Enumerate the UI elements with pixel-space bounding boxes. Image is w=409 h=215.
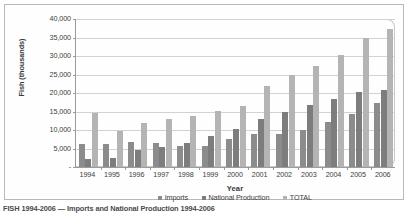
legend-label: National Production (208, 194, 269, 202)
bar-group (174, 19, 199, 167)
y-axis-tick-mark (73, 112, 76, 113)
x-axis-tick-label: 1998 (173, 171, 198, 179)
bar-total (92, 113, 98, 167)
legend-label: Imports (165, 194, 188, 202)
x-axis-tick-label: 2002 (272, 171, 297, 179)
y-axis-tick-mark (73, 130, 76, 131)
bar-national-production (307, 105, 313, 167)
y-axis-tick-label: 5,000 (23, 145, 71, 152)
legend-item[interactable]: National Production (202, 194, 269, 202)
y-axis-tick-mark (73, 167, 76, 168)
bar-imports (177, 146, 183, 167)
bar-total (166, 119, 172, 167)
y-axis-tick-mark (73, 149, 76, 150)
x-axis-tick-mark (125, 167, 126, 170)
x-axis-tick-labels: 1994199519961997199819992000200120022003… (75, 171, 395, 183)
x-axis-tick-label: 2000 (223, 171, 248, 179)
bar-group (248, 19, 273, 167)
bar-group (347, 19, 372, 167)
y-axis-tick-mark (73, 56, 76, 57)
bar-imports (202, 146, 208, 167)
bar-group (101, 19, 126, 167)
x-axis-tick-mark (347, 167, 348, 170)
y-axis-tick-label: 15,000 (23, 108, 71, 115)
bar-imports (153, 143, 159, 167)
chart-frame: Fish (thousands) 40,00035,00030,00025,00… (4, 4, 404, 200)
bar-imports (226, 139, 232, 167)
bar-national-production (381, 90, 387, 167)
bar-series-container (76, 19, 395, 167)
x-axis-tick-mark (371, 167, 372, 170)
y-axis-tick-label: 10,000 (23, 126, 71, 133)
bar-group (150, 19, 175, 167)
bar-group (76, 19, 101, 167)
bar-imports (374, 103, 380, 167)
y-axis-tick-label: 20,000 (23, 89, 71, 96)
y-axis-tick-label: 35,000 (23, 34, 71, 41)
bar-group (199, 19, 224, 167)
bar-total (363, 38, 369, 167)
bar-total (240, 106, 246, 167)
bar-group (125, 19, 150, 167)
bar-national-production (85, 159, 91, 167)
bar-total (215, 111, 221, 167)
x-axis-tick-label: 2004 (321, 171, 346, 179)
bar-total (289, 75, 295, 168)
legend-swatch-icon (202, 196, 206, 200)
bar-group (273, 19, 298, 167)
x-axis-tick-label: 1997 (149, 171, 174, 179)
y-axis-tick-mark (73, 19, 76, 20)
bar-total (338, 55, 344, 167)
bar-national-production (282, 112, 288, 167)
x-axis-tick-label: 1996 (124, 171, 149, 179)
x-axis-tick-mark (101, 167, 102, 170)
x-axis-tick-label: 2005 (346, 171, 371, 179)
legend-item[interactable]: Imports (158, 194, 188, 202)
bar-imports (251, 134, 257, 167)
bar-imports (103, 144, 109, 167)
x-axis-tick-label: 1999 (198, 171, 223, 179)
legend-item[interactable]: TOTAL (283, 194, 312, 202)
x-axis-title: Year (75, 184, 395, 193)
x-axis-tick-mark (224, 167, 225, 170)
chart-legend: ImportsNational ProductionTOTAL (75, 193, 395, 203)
bar-imports (79, 144, 85, 167)
bar-national-production (184, 143, 190, 167)
y-axis-tick-label: 30,000 (23, 52, 71, 59)
bar-imports (276, 134, 282, 167)
y-axis-tick-mark (73, 38, 76, 39)
bar-total (264, 86, 270, 167)
x-axis-tick-label: 1994 (75, 171, 100, 179)
x-axis-tick-label: 2006 (370, 171, 395, 179)
bar-imports (300, 130, 306, 167)
bar-group (371, 19, 396, 167)
y-axis-tick-label: - (23, 163, 71, 170)
bar-national-production (110, 158, 116, 167)
bar-total (117, 131, 123, 167)
bar-national-production (331, 99, 337, 167)
bar-national-production (258, 119, 264, 167)
bar-group (322, 19, 347, 167)
bar-total (190, 116, 196, 167)
bar-group (298, 19, 323, 167)
x-axis-tick-mark (298, 167, 299, 170)
x-axis-tick-label: 1995 (100, 171, 125, 179)
x-axis-tick-label: 2001 (247, 171, 272, 179)
bar-total (141, 123, 147, 167)
legend-swatch-icon (158, 196, 162, 200)
bar-total (387, 29, 393, 167)
y-axis-tick-mark (73, 75, 76, 76)
x-axis-tick-mark (273, 167, 274, 170)
y-axis-tick-mark (73, 93, 76, 94)
y-axis-tick-label: 40,000 (23, 15, 71, 22)
bar-national-production (208, 136, 214, 167)
x-axis-tick-mark (174, 167, 175, 170)
x-axis-tick-mark (248, 167, 249, 170)
bar-national-production (159, 147, 165, 167)
bar-imports (325, 122, 331, 168)
x-axis-tick-mark (150, 167, 151, 170)
plot-area (75, 19, 395, 167)
x-axis-tick-label: 2003 (297, 171, 322, 179)
x-axis-tick-mark (322, 167, 323, 170)
bar-total (313, 66, 319, 167)
